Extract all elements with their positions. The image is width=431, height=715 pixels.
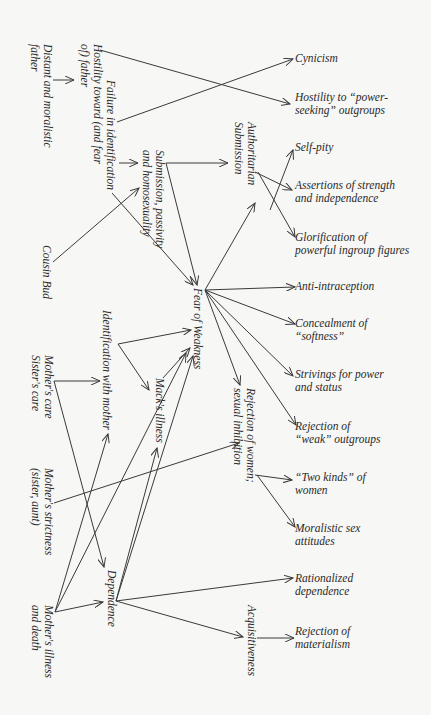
edge-authoritarian-to-assertions [255, 172, 292, 190]
edge-dependence-to-macks [116, 448, 157, 601]
edge-cousin-bud-to-submission [53, 188, 139, 262]
node-line: Acquisitiveness [245, 605, 258, 676]
node-line: “Two kinds” of [295, 471, 366, 484]
node-self-pity: Self-pity [295, 141, 333, 154]
node-line: Identification with mother [100, 310, 113, 430]
node-identification-mother: Identification with mother [100, 310, 113, 430]
node-line: and homosexuality [140, 150, 153, 248]
edge-authoritarian-to-glorification [258, 172, 295, 237]
edge-identification-mother-to-macks [118, 344, 149, 390]
node-mothers-strictness: Mother's strictness (sister, aunt) [29, 468, 55, 555]
edge-hostility-father-to-hostility-outgroups [100, 50, 290, 104]
node-line: Moralistic sex [295, 522, 360, 535]
node-rejection-women: Rejection of women; sexual inhibition [231, 388, 257, 483]
node-line: Submission, passivity [153, 150, 166, 248]
node-assertions-strength: Assertions of strength and independence [295, 179, 395, 205]
node-line: Anti-intraception [295, 280, 374, 293]
node-line: Dependence [105, 570, 118, 627]
edge-fear-to-concealment [205, 290, 295, 324]
node-line: powerful ingroup figures [295, 244, 409, 257]
edge-fear-to-strivings [205, 290, 293, 376]
node-line: and status [295, 381, 384, 394]
node-line: attitudes [295, 535, 360, 548]
node-line: Mother's illness [42, 605, 55, 678]
edge-fear-to-authoritarian [205, 203, 255, 290]
node-mothers-illness-death: Mother's illness and death [29, 605, 55, 678]
node-hostility-power-seeking: Hostility to “power- seeking” outgroups [295, 91, 388, 117]
node-line: Cousin Bud [40, 245, 53, 299]
node-line: Rejection of [295, 420, 381, 433]
node-line: women [295, 484, 366, 497]
node-rejection-materialism: Rejection of materialism [295, 625, 350, 651]
node-line: and independence [295, 192, 395, 205]
node-macks-illness: Mack's illness [153, 378, 166, 443]
node-line: Failure in identification [104, 44, 117, 190]
node-line: Mother's care [42, 355, 55, 419]
node-concealment-softness: Concealment of “softness” [295, 317, 368, 343]
node-line: Strivings for power [295, 368, 384, 381]
node-line: Mack's illness [153, 378, 166, 443]
edge-authoritarian-to-self-pity [270, 150, 293, 210]
node-authoritarian-submission: Authoritarian Submission [232, 122, 258, 185]
node-line: materialism [295, 638, 350, 651]
node-line: and death [29, 605, 42, 678]
node-line: seeking” outgroups [295, 104, 388, 117]
node-fear-of-weakness: Fear of Weakness [191, 288, 204, 369]
edge-rejection-women-to-moralistic [257, 475, 295, 527]
node-dependence: Dependence [105, 570, 118, 627]
node-line: Authoritarian [245, 122, 258, 185]
node-line: Rejection of women; [244, 388, 257, 483]
edge-identification-mother-to-fear [118, 330, 191, 344]
node-line: “weak” outgroups [295, 433, 381, 446]
node-line: Sister's care [29, 355, 42, 419]
edge-failure-identification-to-cynicism [117, 59, 293, 122]
edge-dependence-to-rationalized [116, 578, 293, 601]
node-line: Cynicism [295, 52, 338, 65]
node-rationalized-dependence: Rationalized dependence [295, 572, 353, 598]
node-line: “softness” [295, 330, 368, 343]
node-strivings-power: Strivings for power and status [295, 368, 384, 394]
edge-fear-to-anti-intraception [205, 287, 295, 290]
node-line: Self-pity [295, 141, 333, 154]
node-rejection-weak-outgroups: Rejection of “weak” outgroups [295, 420, 381, 446]
node-line: Hostility to “power- [295, 91, 388, 104]
node-line: of) father [78, 44, 91, 190]
node-glorification-ingroup: Glorification of powerful ingroup figure… [295, 231, 409, 257]
node-acquisitiveness: Acquisitiveness [245, 605, 258, 676]
edge-submission-to-fear [166, 163, 197, 285]
edge-strictness-to-rejection-women [54, 443, 239, 503]
edge-mothers-illness-to-dependence [55, 602, 103, 612]
node-line: father [28, 44, 41, 148]
node-mothers-care: Mother's care Sister's care [29, 355, 55, 419]
node-failure-identification: Failure in identification Hostility towa… [78, 44, 117, 190]
node-line: Mother's strictness [42, 468, 55, 555]
node-line: sexual inhibition [231, 388, 244, 483]
edge-dependence-to-acquisitiveness [116, 601, 243, 637]
node-moralistic-sex: Moralistic sex attitudes [295, 522, 360, 548]
node-line: Rejection of [295, 625, 350, 638]
node-line: Submission [232, 122, 245, 185]
node-cousin-bud: Cousin Bud [40, 245, 53, 299]
edge-mothers-illness-to-fear [55, 353, 186, 612]
edge-macks-to-fear [163, 348, 190, 378]
node-line: dependence [295, 585, 353, 598]
node-line: Fear of Weakness [191, 288, 204, 369]
node-line: (sister, aunt) [29, 468, 42, 555]
node-line: Rationalized [295, 572, 353, 585]
node-line: Hostility toward (and fear [91, 44, 104, 190]
node-line: Concealment of [295, 317, 368, 330]
node-line: Distant and moralistic [41, 44, 54, 148]
edge-fear-to-rejection-women [205, 290, 240, 385]
node-submission-passivity: Submission, passivity and homosexuality [140, 150, 166, 248]
node-distant-father: Distant and moralistic father [28, 44, 54, 148]
node-anti-intraception: Anti-intraception [295, 280, 374, 293]
node-two-kinds-women: “Two kinds” of women [295, 471, 366, 497]
node-line: Glorification of [295, 231, 409, 244]
node-cynicism: Cynicism [295, 52, 338, 65]
node-line: Assertions of strength [295, 179, 395, 192]
